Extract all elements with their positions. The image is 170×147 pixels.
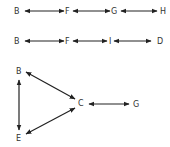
node-f-row2: F [65,37,70,46]
node-d-row2: D [157,37,163,46]
node-g-triangle: G [133,100,139,109]
edge-b-c-triangle [26,72,75,99]
node-i-row2: I [109,37,111,46]
node-e-triangle: E [16,134,21,143]
node-b-row1: B [14,7,20,16]
node-f-row1: F [65,7,70,16]
triangle-graph: B C G E [16,67,139,143]
node-h-row1: H [160,7,166,16]
node-b-triangle: B [16,67,22,76]
edge-e-c-triangle [26,108,75,134]
node-g-row1: G [111,7,117,16]
row2-graph: B F I D [14,37,163,46]
diagram-canvas: B F G H B F I D B C G E [0,0,170,147]
node-c-triangle: C [78,99,84,108]
node-b-row2: B [14,37,20,46]
row1-graph: B F G H [14,7,166,16]
